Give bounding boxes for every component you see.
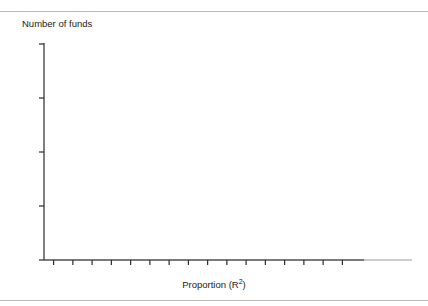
histogram-figure: Number of funds Proportion (R2) [0, 0, 428, 306]
plot-canvas [0, 0, 428, 306]
